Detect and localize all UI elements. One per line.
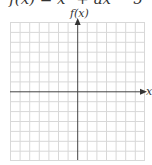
y-axis-arrow-icon [75, 18, 81, 25]
x-axis-arrow-icon [140, 89, 147, 95]
coordinate-grid [0, 0, 152, 165]
